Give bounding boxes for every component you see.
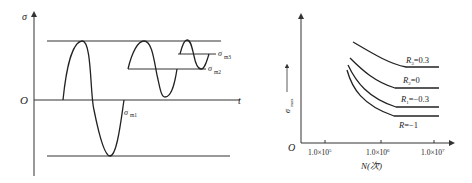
sigma-m2-label: σ — [208, 64, 213, 73]
figure: σ t O σ m1 σ m2 σ m3 O σ max — [0, 0, 472, 183]
label-r2: R2=0 — [402, 75, 420, 86]
sigma-m3-label: σ — [218, 49, 223, 58]
sigma-m1-sub: m1 — [130, 112, 137, 118]
tick-label-1: 1.0×105 — [308, 148, 332, 157]
origin-label-right: O — [288, 142, 295, 153]
tick-label-3: 1.0×107 — [421, 148, 445, 157]
origin-label: O — [20, 94, 28, 106]
curve-r-neg1 — [347, 70, 439, 116]
label-r-neg1: R=−1 — [398, 120, 418, 130]
sigma-axis-label: σ — [22, 11, 28, 22]
waveform-1 — [63, 41, 124, 156]
label-r1: R1=−0.3 — [400, 94, 429, 105]
sigma-m2-sub: m2 — [214, 69, 221, 75]
sigma-m1-label: σ — [124, 108, 129, 117]
sigma-max-sub: max — [289, 98, 294, 107]
label-r3: R3=0.3 — [405, 55, 429, 66]
sigma-max-label: σ — [283, 108, 292, 113]
n-axis-label: N(次) — [360, 161, 382, 171]
time-axis-label: t — [238, 95, 241, 106]
sn-curve-diagram: O σ max 1.0×105 1.0×106 1.0×107 N(次) R3=… — [283, 16, 452, 171]
stress-time-diagram: σ t O σ m1 σ m2 σ m3 — [20, 11, 241, 176]
tick-label-2: 1.0×106 — [366, 148, 390, 157]
sigma-m3-sub: m3 — [224, 54, 231, 60]
